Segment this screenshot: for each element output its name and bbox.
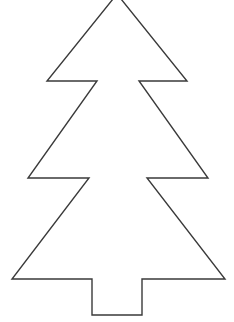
christmas-tree-outline-illustration [0, 0, 234, 322]
image-canvas [0, 0, 234, 322]
